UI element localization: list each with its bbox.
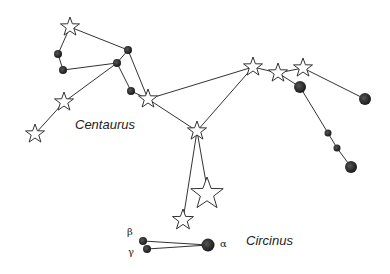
star-dot [325, 130, 332, 137]
beta-label: β [127, 226, 133, 237]
gamma-dot [143, 245, 151, 253]
alpha-dot [202, 239, 215, 252]
star-icon [173, 209, 194, 229]
star-icon [191, 177, 223, 208]
constellation-lines [35, 27, 365, 249]
star-dot [127, 87, 135, 95]
beta-dot [139, 237, 147, 245]
constellation-diagram [0, 0, 390, 274]
star-dot [124, 46, 132, 54]
star-dot [359, 93, 371, 105]
centaurus-label: Centaurus [75, 117, 135, 132]
star-dot [54, 50, 62, 58]
star-icon [61, 17, 80, 35]
star-icon [294, 58, 313, 76]
dots [54, 46, 371, 253]
star-icon [139, 89, 158, 107]
star-icon [244, 57, 263, 75]
star-icon [269, 63, 288, 81]
star-dot [345, 161, 357, 173]
star-dot [334, 145, 341, 152]
gamma-label: γ [128, 246, 134, 257]
star-icon [55, 92, 74, 110]
star-dot [59, 66, 67, 74]
star-dot [294, 81, 306, 93]
circinus-label: Circinus [246, 233, 293, 248]
star-dot [113, 59, 121, 67]
alpha-label: α [220, 238, 227, 249]
stars [26, 17, 313, 229]
